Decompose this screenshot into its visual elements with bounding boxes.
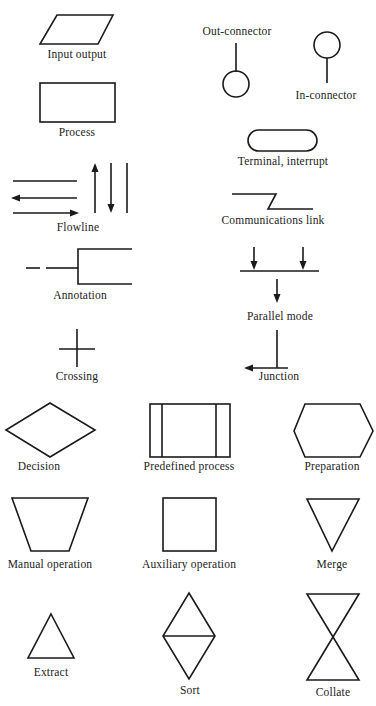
decision-label: Decision bbox=[18, 460, 60, 472]
auxiliary-operation-label: Auxiliary operation bbox=[142, 558, 236, 570]
in-connector-label: In-connector bbox=[295, 89, 356, 101]
merge-symbol bbox=[307, 499, 359, 551]
flowchart-symbols-diagram bbox=[0, 0, 376, 706]
terminal-symbol bbox=[248, 130, 317, 151]
extract-label: Extract bbox=[34, 666, 69, 678]
sort-label: Sort bbox=[180, 684, 200, 696]
junction-symbol bbox=[244, 330, 288, 372]
flowline-label: Flowline bbox=[57, 221, 100, 233]
preparation-symbol bbox=[294, 404, 373, 457]
decision-symbol bbox=[6, 403, 95, 457]
auxiliary-operation-symbol bbox=[163, 498, 216, 551]
annotation-label: Annotation bbox=[53, 289, 107, 301]
crossing-label: Crossing bbox=[56, 370, 99, 382]
junction-label: Junction bbox=[259, 370, 300, 382]
input-output-label: Input output bbox=[48, 48, 107, 60]
predefined-process-symbol bbox=[150, 404, 230, 457]
flowline-symbol bbox=[11, 163, 127, 217]
communications-link-label: Communications link bbox=[221, 214, 324, 226]
terminal-label: Terminal, interrupt bbox=[238, 155, 329, 167]
crossing-symbol bbox=[59, 329, 95, 367]
process-label: Process bbox=[59, 126, 96, 138]
communications-link-symbol bbox=[232, 194, 313, 209]
extract-symbol bbox=[28, 614, 74, 658]
sort-symbol bbox=[163, 593, 215, 679]
parallel-mode-symbol bbox=[240, 247, 319, 303]
preparation-label: Preparation bbox=[304, 460, 359, 472]
in-connector-symbol bbox=[314, 32, 340, 83]
process-symbol bbox=[40, 83, 115, 122]
manual-operation-label: Manual operation bbox=[8, 558, 93, 570]
out-connector-label: Out-connector bbox=[202, 25, 271, 37]
parallel-mode-label: Parallel mode bbox=[247, 310, 313, 322]
out-connector-symbol bbox=[223, 43, 249, 97]
collate-label: Collate bbox=[316, 686, 351, 698]
annotation-symbol bbox=[26, 249, 132, 284]
input-output-symbol bbox=[40, 15, 113, 44]
collate-symbol bbox=[307, 594, 359, 680]
predefined-process-label: Predefined process bbox=[144, 460, 235, 472]
manual-operation-symbol bbox=[12, 498, 88, 551]
merge-label: Merge bbox=[317, 558, 348, 570]
